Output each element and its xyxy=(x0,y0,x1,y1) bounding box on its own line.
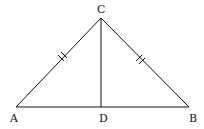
segment-ac xyxy=(16,18,101,107)
label-a: A xyxy=(9,112,19,125)
label-c: C xyxy=(97,3,105,16)
label-b: B xyxy=(189,112,197,125)
segment-cb xyxy=(101,18,189,107)
tick-mark-ac xyxy=(58,52,67,61)
triangle-diagram: C A D B xyxy=(0,0,204,129)
tick-mark-bc xyxy=(136,55,145,64)
label-d: D xyxy=(99,112,108,125)
